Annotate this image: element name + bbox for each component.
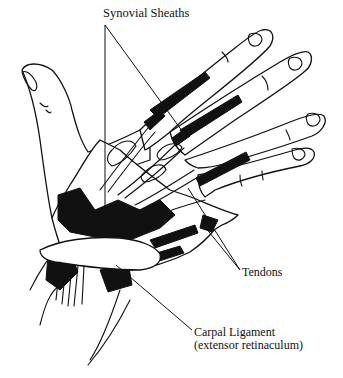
extensor-retinaculum-label: (extensor retinaculum) xyxy=(194,339,303,352)
synovial-sheaths-label: Synovial Sheaths xyxy=(103,7,189,20)
hand-anatomy-drawing xyxy=(0,0,343,378)
tendons-label: Tendons xyxy=(242,266,283,279)
